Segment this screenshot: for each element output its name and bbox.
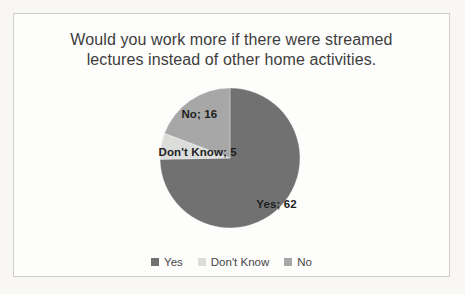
pie-label-yes: Yes; 62: [256, 198, 296, 210]
legend-label-no: No: [297, 256, 312, 268]
legend-label-yes: Yes: [164, 256, 183, 268]
legend-label-dont-know: Don't Know: [211, 256, 269, 268]
legend-item-dont-know: Don't Know: [198, 256, 269, 268]
chart-legend: Yes Don't Know No: [14, 256, 449, 268]
legend-item-yes: Yes: [151, 256, 183, 268]
legend-marker-yes-icon: [151, 258, 159, 266]
chart-frame: Would you work more if there were stream…: [13, 13, 450, 277]
pie-label-no: No; 16: [181, 108, 217, 120]
pie-plot-area: Yes; 62Don't Know; 5No; 16: [14, 14, 449, 276]
legend-marker-dont-know-icon: [198, 258, 206, 266]
legend-marker-no-icon: [284, 258, 292, 266]
legend-item-no: No: [284, 256, 312, 268]
pie-label-don-t-know: Don't Know; 5: [159, 146, 237, 158]
scanned-chart-page: Would you work more if there were stream…: [0, 0, 465, 294]
